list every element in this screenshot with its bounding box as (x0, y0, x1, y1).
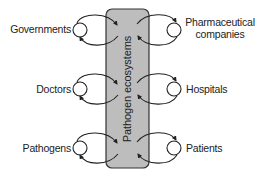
label-pharmaceutical-line2: companies (185, 28, 255, 40)
label-pharmaceutical-line1: Pharmaceutical (185, 16, 255, 28)
patients-self-loop-icon (167, 141, 181, 155)
label-pathogens: Pathogens (23, 142, 71, 154)
label-governments: Governments (10, 23, 71, 35)
pharmaceutical-self-loop-icon (167, 23, 181, 37)
label-doctors: Doctors (36, 83, 71, 95)
hospitals-self-loop-icon (167, 82, 181, 96)
label-patients: Patients (186, 142, 222, 154)
pathogen-ecosystems-diagram: Pathogen ecosystems Governments Doctors … (0, 0, 255, 179)
center-label: Pathogen ecosystems (121, 36, 133, 142)
pathogens-self-loop-icon (73, 141, 87, 155)
label-pharmaceutical-companies: Pharmaceutical companies (185, 16, 255, 40)
label-hospitals: Hospitals (186, 83, 227, 95)
doctors-self-loop-icon (73, 82, 87, 96)
governments-self-loop-icon (73, 23, 87, 37)
